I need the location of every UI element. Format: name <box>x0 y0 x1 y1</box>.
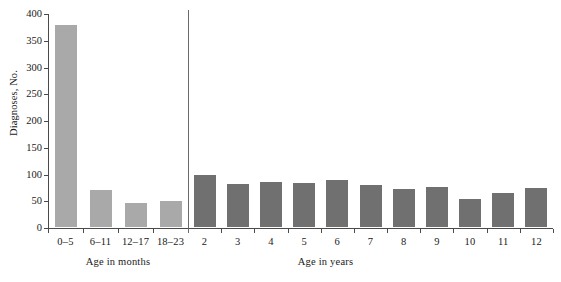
bar-months-3 <box>160 201 182 227</box>
y-tick-mark <box>44 41 48 42</box>
y-tick-label: 200 <box>2 115 48 127</box>
x-tick-label: 3 <box>235 236 240 248</box>
y-tick-mark <box>44 201 48 202</box>
bar-years-8 <box>459 199 481 227</box>
x-tick-mark <box>321 229 322 233</box>
bar-years-4 <box>326 180 348 227</box>
bar-years-2 <box>260 182 282 227</box>
x-tick-label: 12–17 <box>122 236 149 248</box>
bar-years-1 <box>227 184 249 227</box>
x-tick-label: 8 <box>401 236 406 248</box>
y-tick-label: 400 <box>2 8 48 20</box>
y-tick-label: 150 <box>2 142 48 154</box>
x-tick-mark <box>520 229 521 233</box>
x-tick-mark <box>221 229 222 233</box>
x-axis-line <box>48 228 553 229</box>
x-tick-mark <box>118 229 119 233</box>
y-tick-mark <box>44 175 48 176</box>
x-tick-mark <box>420 229 421 233</box>
y-axis-line <box>48 14 49 229</box>
x-tick-label: 18–23 <box>157 236 184 248</box>
y-tick-label: 350 <box>2 35 48 47</box>
bar-months-1 <box>90 190 112 227</box>
x-tick-label: 11 <box>498 236 509 248</box>
x-tick-mark <box>453 229 454 233</box>
y-axis-title: Diagnoses, No. <box>6 28 22 178</box>
x-tick-label: 4 <box>268 236 273 248</box>
y-tick-mark <box>44 148 48 149</box>
x-tick-label: 10 <box>465 236 476 248</box>
x-tick-label: 12 <box>531 236 542 248</box>
plot-area: 050100150200250300350400 <box>48 14 553 228</box>
bar-years-5 <box>360 185 382 227</box>
bar-years-9 <box>492 193 514 227</box>
x-tick-mark <box>387 229 388 233</box>
bar-years-3 <box>293 183 315 227</box>
panel-caption-years: Age in years <box>298 256 353 268</box>
x-tick-label: 2 <box>202 236 207 248</box>
y-tick-label: 100 <box>2 169 48 181</box>
x-tick-label: 7 <box>368 236 373 248</box>
x-tick-label: 6–11 <box>90 236 111 248</box>
x-tick-label: 6 <box>335 236 340 248</box>
y-tick-label: 300 <box>2 62 48 74</box>
x-tick-label: 5 <box>301 236 306 248</box>
x-tick-mark <box>553 229 554 233</box>
bar-years-10 <box>525 188 547 227</box>
y-tick-mark <box>44 121 48 122</box>
bar-years-7 <box>426 187 448 227</box>
y-tick-label: 250 <box>2 88 48 100</box>
bar-months-0 <box>55 25 77 227</box>
x-tick-mark <box>153 229 154 233</box>
x-tick-label: 0–5 <box>57 236 73 248</box>
bar-years-0 <box>194 175 216 227</box>
y-tick-mark <box>44 94 48 95</box>
x-tick-mark <box>254 229 255 233</box>
panel-caption-months: Age in months <box>86 256 150 268</box>
y-tick-mark <box>44 68 48 69</box>
x-tick-mark <box>487 229 488 233</box>
x-tick-mark <box>288 229 289 233</box>
x-tick-label: 9 <box>434 236 439 248</box>
x-tick-mark <box>83 229 84 233</box>
panel-divider <box>188 10 189 233</box>
y-tick-mark <box>44 14 48 15</box>
bar-months-2 <box>125 203 147 227</box>
x-tick-mark <box>48 229 49 233</box>
x-tick-mark <box>354 229 355 233</box>
bar-chart-figure: Diagnoses, No. 050100150200250300350400 … <box>0 0 561 282</box>
y-tick-label: 0 <box>2 222 48 234</box>
bar-years-6 <box>393 189 415 227</box>
y-tick-label: 50 <box>2 195 48 207</box>
